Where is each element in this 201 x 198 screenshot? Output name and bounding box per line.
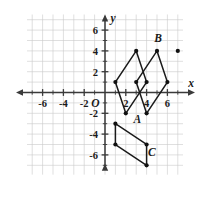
shape-label-a: A (132, 113, 141, 125)
x-tick-label: -6 (38, 98, 47, 109)
shape-label-b: B (153, 32, 162, 44)
y-tick-label: 4 (93, 46, 99, 57)
y-tick-label: -6 (89, 150, 98, 161)
coordinate-plane-figure: -6-4-2246642-2-4-6OxyABC (0, 0, 201, 198)
x-tick-label: 6 (165, 98, 170, 109)
shape-label-c: C (148, 146, 156, 158)
coordinate-plot-svg: -6-4-2246642-2-4-6OxyABC (0, 0, 201, 198)
vertex-point (165, 80, 169, 84)
x-tick-label: -4 (59, 98, 68, 109)
vertex-point (113, 122, 117, 126)
plot-background (0, 0, 201, 198)
y-tick-label: -4 (89, 129, 98, 140)
vertex-point (134, 49, 138, 53)
y-axis-label: y (108, 12, 116, 25)
vertex-point (134, 80, 138, 84)
vertex-point (176, 49, 180, 53)
origin-label: O (91, 97, 99, 109)
vertex-point (145, 111, 149, 115)
vertex-point (145, 80, 149, 84)
vertex-point (113, 80, 117, 84)
vertex-point (113, 142, 117, 146)
x-tick-label: -2 (80, 98, 89, 109)
vertex-point (155, 49, 159, 53)
vertex-point (145, 163, 149, 167)
y-tick-label: -2 (89, 108, 98, 119)
y-tick-label: 2 (93, 67, 98, 78)
x-axis-label: x (187, 77, 194, 89)
vertex-point (124, 111, 128, 115)
y-tick-label: 6 (93, 25, 98, 36)
